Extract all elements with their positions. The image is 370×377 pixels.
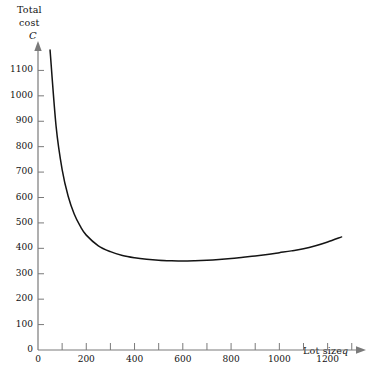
x-axis-tick-label: 200 (69, 354, 103, 364)
y-axis-ticks (38, 70, 44, 324)
y-axis-tick-label: 500 (3, 217, 33, 227)
x-axis-tick-label: 1000 (262, 354, 296, 364)
y-axis-tick-label: 600 (3, 192, 33, 202)
x-axis-tick-label: 800 (214, 354, 248, 364)
y-axis-tick-label: 1100 (3, 64, 33, 74)
axes-group (34, 41, 366, 354)
x-axis-ticks (62, 343, 352, 350)
y-axis-tick-label: 800 (3, 141, 33, 151)
y-axis-tick-label: 700 (3, 166, 33, 176)
x-axis-tick-label: 0 (21, 354, 55, 364)
y-axis-tick-label: 300 (3, 268, 33, 278)
x-axis-arrowhead (356, 346, 366, 353)
plot-area (0, 0, 370, 377)
y-axis-tick-label: 900 (3, 115, 33, 125)
y-axis-tick-label: 400 (3, 242, 33, 252)
y-axis-arrowhead (34, 41, 41, 51)
chart-figure: Total cost C Lot sizeq 01002003004005006… (0, 0, 370, 377)
x-axis-tick-label: 400 (118, 354, 152, 364)
total-cost-curve (50, 50, 342, 261)
y-axis-tick-label: 1000 (3, 90, 33, 100)
y-axis-tick-label: 0 (3, 344, 33, 354)
x-axis-tick-label: 1200 (311, 354, 345, 364)
y-axis-tick-label: 200 (3, 293, 33, 303)
x-axis-tick-label: 600 (166, 354, 200, 364)
y-axis-tick-label: 100 (3, 319, 33, 329)
